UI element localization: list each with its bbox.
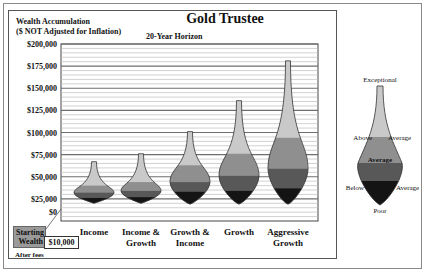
after-fees-note: After fees — [15, 251, 44, 259]
starting-wealth-label: Starting Wealth — [13, 226, 46, 248]
legend-below-left: Below — [346, 184, 365, 192]
x-tick-label: Income — [80, 227, 109, 237]
starting-wealth-value: $10,000 — [44, 236, 79, 249]
y-tick-label: $100,000 — [27, 129, 57, 138]
x-tick-label: Growth — [273, 238, 303, 248]
legend-below-right: Average — [396, 184, 419, 192]
starting-wealth-line2: Wealth — [16, 237, 43, 246]
y-tick-label: $200,000 — [27, 40, 57, 49]
y-tick-label: $25,000 — [31, 195, 57, 204]
starting-wealth-line1: Starting — [16, 228, 43, 237]
x-tick-label: Income — [176, 238, 205, 248]
y-tick-label: $175,000 — [27, 62, 57, 71]
y-tick-label: $125,000 — [27, 106, 57, 115]
legend-above-right: Average — [388, 134, 411, 142]
x-tick-label: Growth — [126, 238, 156, 248]
y-tick-label: $150,000 — [27, 84, 57, 93]
legend-average: Average — [368, 156, 392, 164]
legend-exceptional: Exceptional — [363, 76, 396, 84]
y-tick-label: $75,000 — [31, 151, 57, 160]
x-tick-label: Growth & — [170, 227, 210, 237]
vase-chart: $0$25,000$50,000$75,000$100,000$125,000$… — [0, 0, 427, 275]
legend-poor: Poor — [373, 207, 387, 215]
x-tick-label: Growth — [224, 227, 254, 237]
x-tick-label: Income & — [122, 227, 161, 237]
legend-band — [350, 86, 410, 138]
x-tick-label: Aggressive — [267, 227, 308, 237]
y-tick-label: $50,000 — [31, 173, 57, 182]
legend-band — [350, 163, 410, 182]
legend-above-left: Above — [353, 134, 372, 142]
